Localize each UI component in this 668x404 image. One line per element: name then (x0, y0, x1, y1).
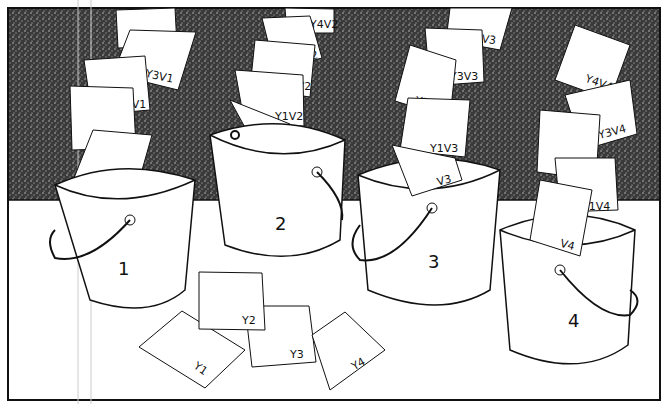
card-y2: Y2 (199, 272, 265, 330)
bucket-illustration: Y4V1 Y3V1 Y2V1 Y1V1 V1 1 Y4V2 Y3V2 Y2V2 … (0, 0, 668, 404)
svg-text:2: 2 (275, 213, 286, 234)
svg-text:4: 4 (568, 310, 579, 331)
bucket-3: V3 3 (353, 145, 501, 305)
bucket-2: 2 (210, 124, 345, 257)
svg-text:Y2: Y2 (241, 314, 256, 327)
card-y1v3: Y1V3 (400, 98, 470, 157)
svg-text:3: 3 (428, 251, 439, 272)
svg-text:Y3: Y3 (289, 348, 304, 361)
svg-text:1: 1 (118, 258, 129, 279)
